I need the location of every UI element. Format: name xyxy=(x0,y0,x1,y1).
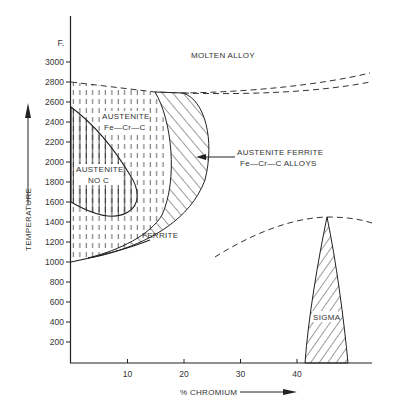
y-tick-label: 400 xyxy=(50,317,64,327)
x-tick-label: 10 xyxy=(123,369,133,379)
y-tick-label: 2000 xyxy=(45,157,64,167)
y-tick-label: 2400 xyxy=(45,117,64,127)
label-molten-alloy: MOLTEN ALLOY xyxy=(191,51,255,60)
x-tick-label: 40 xyxy=(292,369,302,379)
y-tick-label: 2800 xyxy=(45,77,64,87)
x-axis-arrow-icon xyxy=(283,389,297,395)
label-no-c: NO C xyxy=(88,176,109,185)
label-ferrite: FERRITE xyxy=(142,231,178,240)
y-tick-label: 1600 xyxy=(45,197,64,207)
y-tick-label: 1200 xyxy=(45,237,64,247)
y-tick-label: 1400 xyxy=(45,217,64,227)
label-austenite-ferrite: AUSTENITE FERRITE xyxy=(237,148,323,157)
region-sigma xyxy=(305,217,348,363)
y-tick-label: 200 xyxy=(50,337,64,347)
y-axis-arrow-icon xyxy=(25,103,31,118)
y-unit-label: F. xyxy=(57,38,64,48)
y-tick-label: 1000 xyxy=(45,257,64,267)
y-tick-label: 800 xyxy=(50,277,64,287)
y-tick-label: 2600 xyxy=(45,97,64,107)
label-austenite-fecrc: AUSTENITE xyxy=(102,112,150,121)
y-tick-label: 2200 xyxy=(45,137,64,147)
x-tick-label: 30 xyxy=(236,369,246,379)
x-tick-label: 20 xyxy=(179,369,189,379)
label-sigma: SIGMA xyxy=(313,313,341,322)
phase-diagram: 200 400 600 800 1000 1200 1400 1600 1800… xyxy=(0,0,396,415)
y-tick-label: 3000 xyxy=(45,57,64,67)
x-axis-label: % CHROMIUM xyxy=(180,388,237,397)
label-fecrc-alloys: Fe—Cr—C ALLOYS xyxy=(240,159,317,168)
y-tick-label: 600 xyxy=(50,297,64,307)
label-fecrc: Fe—Cr—C xyxy=(104,123,146,132)
label-austenite-no-c: AUSTENITE xyxy=(76,165,124,174)
y-tick-label: 1800 xyxy=(45,177,64,187)
sigma-solvus-line xyxy=(215,217,372,257)
